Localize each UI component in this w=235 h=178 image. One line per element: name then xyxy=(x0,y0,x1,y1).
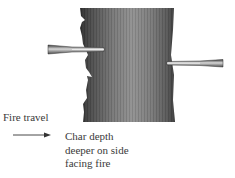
fire-travel-label: Fire travel xyxy=(3,111,49,125)
right-depth-probe-icon xyxy=(167,60,223,68)
fire-direction-arrow-icon xyxy=(13,133,51,138)
char-depth-caption: Char depth deeper on side facing fire xyxy=(65,130,129,171)
wooden-post xyxy=(80,8,175,122)
caption-line-3: facing fire xyxy=(65,157,129,171)
caption-line-1: Char depth xyxy=(65,130,129,144)
caption-line-2: deeper on side xyxy=(65,144,129,158)
char-depth-diagram: Fire travel Char depth deeper on side fa… xyxy=(0,0,235,178)
